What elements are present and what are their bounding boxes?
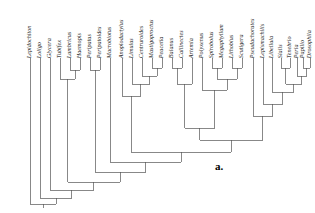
panel-label: a. bbox=[215, 160, 223, 172]
phylogenetic-tree-figure: LepidochitonLoligoGlyceraTubifexLumbricu… bbox=[0, 0, 315, 213]
cladogram-lines bbox=[0, 0, 315, 213]
